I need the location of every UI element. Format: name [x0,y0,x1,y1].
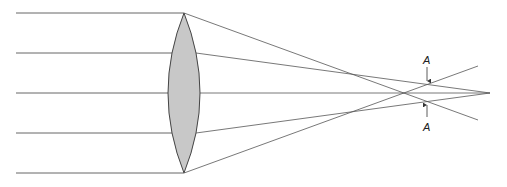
label-a-bottom: A [422,121,430,133]
convex-lens [168,13,200,173]
lens-diagram: A A [0,0,507,187]
label-a-top: A [422,54,430,66]
marker-top: A [422,54,430,81]
marker-bottom: A [422,105,430,133]
refracted-rays [184,13,490,173]
